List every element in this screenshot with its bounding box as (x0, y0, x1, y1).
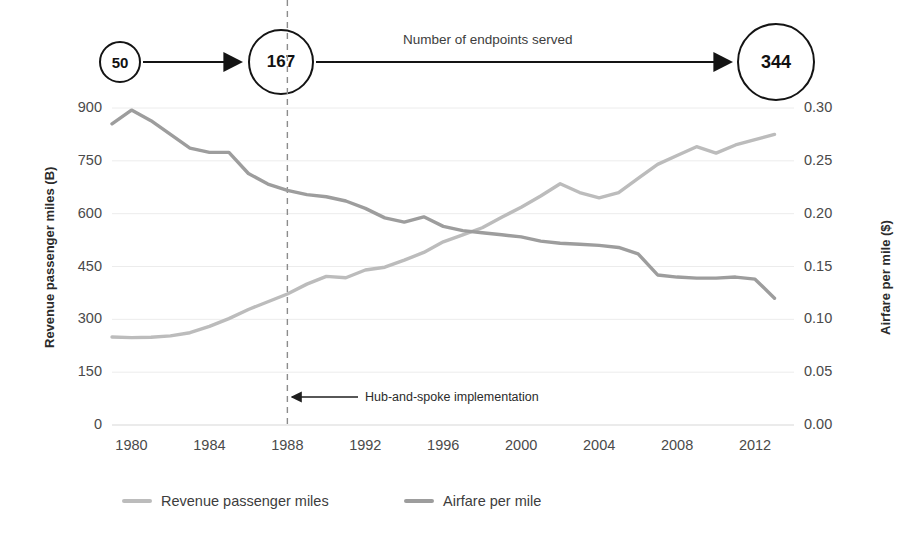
y-tick-right-0.30: 0.30 (804, 99, 864, 115)
endpoint-node-3-value: 344 (761, 52, 791, 73)
x-tick-1992: 1992 (335, 437, 395, 453)
y-tick-left-600: 600 (40, 205, 102, 221)
x-tick-2012: 2012 (725, 437, 785, 453)
endpoint-node-1: 50 (99, 41, 141, 83)
endpoints-annotation-band: 50 167 344 Number of endpoints served (0, 0, 897, 104)
series-lines (112, 108, 794, 425)
legend-label-revenue: Revenue passenger miles (161, 493, 329, 509)
chart-canvas: 50 167 344 Number of endpoints served Re… (0, 0, 897, 534)
legend-item-airfare[interactable]: Airfare per mile (404, 493, 541, 509)
y-tick-right-0.10: 0.10 (804, 310, 864, 326)
endpoint-node-2: 167 (248, 29, 314, 95)
endpoint-node-2-value: 167 (267, 52, 295, 72)
x-tick-2000: 2000 (491, 437, 551, 453)
y-axis-right-title: Airfare per mile ($) (878, 220, 893, 335)
endpoint-node-1-value: 50 (112, 54, 129, 71)
legend-label-airfare: Airfare per mile (443, 493, 541, 509)
x-tick-2004: 2004 (569, 437, 629, 453)
y-tick-right-0.05: 0.05 (804, 363, 864, 379)
legend-swatch-airfare (404, 499, 434, 503)
x-tick-1980: 1980 (101, 437, 161, 453)
annotation-label: Hub-and-spoke implementation (365, 390, 539, 404)
chart-legend: Revenue passenger miles Airfare per mile (112, 493, 794, 517)
data-lines (112, 110, 775, 338)
gridlines (112, 108, 794, 425)
y-tick-left-450: 450 (40, 258, 102, 274)
y-tick-right-0.25: 0.25 (804, 152, 864, 168)
x-tick-1988: 1988 (257, 437, 317, 453)
x-tick-2008: 2008 (647, 437, 707, 453)
y-tick-left-150: 150 (40, 363, 102, 379)
endpoint-node-3: 344 (737, 23, 815, 101)
y-tick-left-900: 900 (40, 99, 102, 115)
x-tick-1996: 1996 (413, 437, 473, 453)
y-tick-right-0.15: 0.15 (804, 258, 864, 274)
y-tick-right-0.20: 0.20 (804, 205, 864, 221)
y-tick-left-0: 0 (40, 416, 102, 432)
y-tick-left-750: 750 (40, 152, 102, 168)
y-tick-right-0.00: 0.00 (804, 416, 864, 432)
y-tick-left-300: 300 (40, 310, 102, 326)
plot-area (112, 108, 794, 425)
x-tick-1984: 1984 (179, 437, 239, 453)
legend-item-revenue[interactable]: Revenue passenger miles (122, 493, 329, 509)
endpoints-title: Number of endpoints served (403, 32, 573, 47)
legend-swatch-revenue (122, 499, 152, 503)
